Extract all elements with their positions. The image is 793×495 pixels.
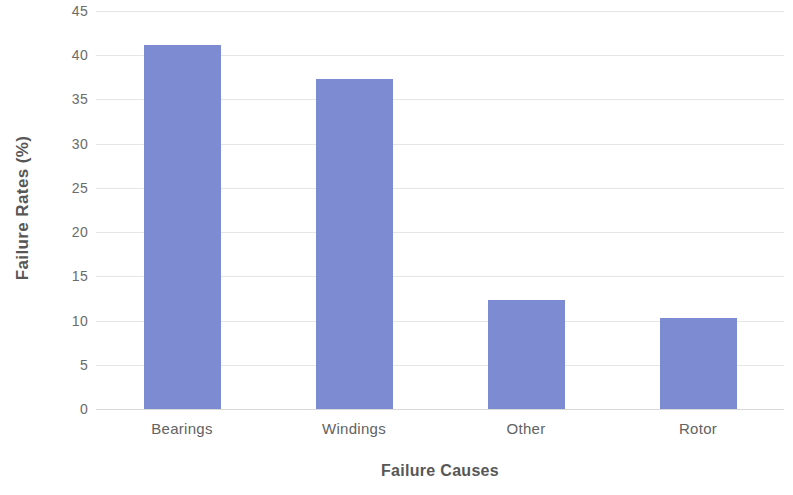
plot-area <box>96 11 784 409</box>
y-axis-tick-label: 0 <box>48 401 88 417</box>
x-axis-tick-label: Other <box>506 420 545 437</box>
y-axis-tick-label: 20 <box>48 224 88 240</box>
y-axis-tick-label: 15 <box>48 268 88 284</box>
y-axis-tick-label: 10 <box>48 313 88 329</box>
y-axis-tick-label: 25 <box>48 180 88 196</box>
y-axis-tick-label: 40 <box>48 47 88 63</box>
x-axis-tick-label: Rotor <box>679 420 717 437</box>
y-axis-tick-label: 35 <box>48 91 88 107</box>
y-axis-tick-label: 45 <box>48 3 88 19</box>
bar <box>144 45 221 409</box>
bar <box>316 79 393 409</box>
x-axis-tick-label: Bearings <box>151 420 213 437</box>
y-axis-tick-label: 5 <box>48 357 88 373</box>
y-axis-title: Failure Rates (%) <box>0 0 46 415</box>
y-axis-title-text: Failure Rates (%) <box>13 135 33 280</box>
x-axis-tick-labels: BearingsWindingsOtherRotor <box>96 420 784 454</box>
bar-chart: Failure Rates (%) 051015202530354045 Bea… <box>0 0 793 495</box>
bar <box>660 318 737 409</box>
x-axis-tick-label: Windings <box>322 420 386 437</box>
bar <box>488 300 565 409</box>
bars <box>96 11 784 409</box>
y-axis-tick-labels: 051015202530354045 <box>48 0 92 420</box>
axis-baseline <box>96 409 784 410</box>
x-axis-title: Failure Causes <box>96 462 784 480</box>
y-axis-tick-label: 30 <box>48 136 88 152</box>
